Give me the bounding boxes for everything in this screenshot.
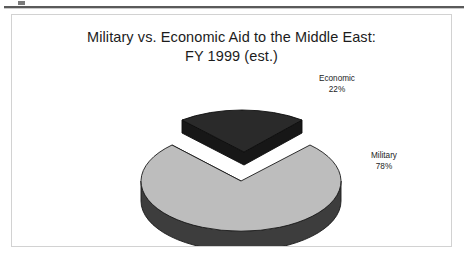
slice-label-military: Military 78% [351, 151, 417, 172]
slice-label-military-pct: 78% [351, 162, 417, 173]
chart-frame: Military vs. Economic Aid to the Middle … [11, 14, 452, 247]
page-divider-rule-shadow [4, 8, 464, 9]
pie-slice-economic[interactable] [182, 110, 302, 165]
slice-label-military-name: Military [371, 151, 397, 160]
pie-chart-3d [12, 15, 453, 246]
page-divider-tick [18, 1, 25, 5]
slice-label-economic-name: Economic [319, 74, 355, 83]
slice-label-economic: Economic 22% [301, 74, 373, 95]
slice-label-economic-pct: 22% [301, 85, 373, 96]
